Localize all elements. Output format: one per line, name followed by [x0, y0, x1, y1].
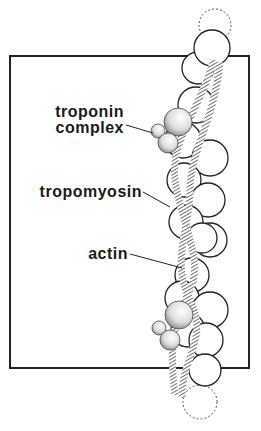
thin-filament-illustration: [0, 0, 261, 431]
troponin-complex-label: troponin complex: [38, 104, 124, 136]
troponin-label-line2: complex: [38, 120, 124, 136]
tropomyosin-label: tropomyosin: [20, 184, 142, 200]
troponin-label-line1: troponin: [38, 104, 124, 120]
actin-label: actin: [80, 246, 128, 262]
